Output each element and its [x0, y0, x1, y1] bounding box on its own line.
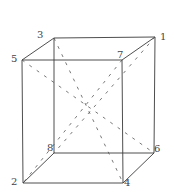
diagonal-5-6 [22, 60, 154, 153]
vertex-label-2: 2 [11, 176, 17, 187]
space-diagonals [22, 37, 155, 183]
edge-1-7 [122, 37, 155, 60]
vertex-label-4: 4 [124, 177, 130, 188]
vertex-label-7: 7 [117, 49, 123, 60]
edge-3-5 [22, 38, 54, 60]
vertex-label-5: 5 [11, 53, 17, 64]
edge-8-2 [23, 153, 54, 183]
edge-7-4 [122, 60, 123, 183]
vertex-label-8: 8 [47, 142, 53, 153]
vertex-label-1: 1 [160, 31, 166, 42]
vertex-label-3: 3 [37, 29, 43, 40]
edge-3-1 [54, 37, 155, 38]
diagonal-1-8 [54, 37, 155, 153]
diagonal-7-2 [23, 60, 122, 183]
vertex-label-6: 6 [154, 143, 160, 154]
cube-edges [22, 37, 155, 183]
cube-diagram: 12345678 [0, 0, 174, 194]
edge-1-6 [154, 37, 155, 153]
edge-5-2 [22, 60, 23, 183]
